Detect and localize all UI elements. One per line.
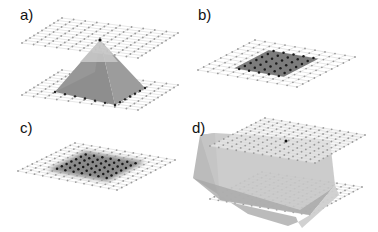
panel-c-plane xyxy=(17,142,176,191)
panel-d-apex-dot xyxy=(285,140,288,143)
diagram-canvas xyxy=(0,0,378,232)
panel-d-label: d) xyxy=(192,119,205,136)
panel-b-plane xyxy=(197,39,356,88)
panel-b-label: b) xyxy=(198,6,211,23)
panel-c-label: c) xyxy=(20,119,33,136)
panel-a-label: a) xyxy=(20,6,33,23)
